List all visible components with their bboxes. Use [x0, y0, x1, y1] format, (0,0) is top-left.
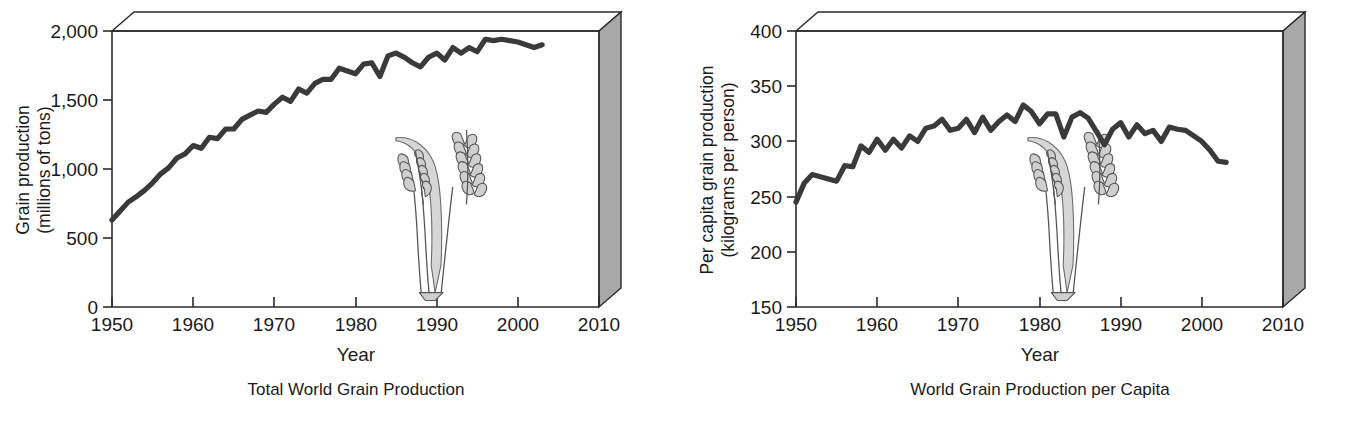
y-axis-title-line1: Per capita grain production — [697, 65, 717, 274]
y-axis-title-line1: Grain production — [13, 105, 33, 234]
x-tick-label: 1960 — [856, 314, 898, 335]
y-tick-label: 2,000 — [50, 21, 98, 42]
total-production-chart: 0 500 1,000 1,500 2,000 1950 1960 1970 — [0, 0, 684, 422]
x-tick-label: 2000 — [1181, 314, 1223, 335]
grain-production-figure: 0 500 1,000 1,500 2,000 1950 1960 1970 — [0, 0, 1368, 422]
y-axis-ticks — [787, 31, 796, 307]
y-tick-label: 250 — [750, 187, 782, 208]
y-tick-label: 400 — [750, 21, 782, 42]
wheat-illustration-icon — [396, 130, 487, 301]
x-tick-label: 2010 — [1262, 314, 1304, 335]
x-tick-label: 1950 — [91, 314, 133, 335]
x-tick-label: 1950 — [775, 314, 817, 335]
panel-per-capita-grain-production: 150 200 250 300 350 400 1950 1960 1970 — [684, 0, 1368, 422]
y-axis-tick-labels: 150 200 250 300 350 400 — [750, 21, 782, 318]
panel-caption: Total World Grain Production — [247, 380, 464, 399]
y-axis-ticks — [103, 31, 112, 307]
box-top-face — [796, 12, 1305, 31]
panel-total-world-grain-production: 0 500 1,000 1,500 2,000 1950 1960 1970 — [0, 0, 684, 422]
x-axis-ticks — [112, 297, 599, 307]
y-axis-title-line2: (millions of tons) — [34, 106, 54, 233]
x-axis-ticks — [796, 297, 1283, 307]
wheat-illustration-icon — [1028, 130, 1119, 301]
wheat-head-right — [452, 130, 486, 204]
x-axis-tick-labels: 1950 1960 1970 1980 1990 2000 2010 — [91, 314, 620, 335]
x-axis-tick-labels: 1950 1960 1970 1980 1990 2000 2010 — [775, 314, 1304, 335]
x-tick-label: 1970 — [937, 314, 979, 335]
x-tick-label: 1990 — [416, 314, 458, 335]
x-tick-label: 1980 — [335, 314, 377, 335]
x-axis-title: Year — [1021, 344, 1060, 365]
x-tick-label: 1970 — [253, 314, 295, 335]
per-capita-chart: 150 200 250 300 350 400 1950 1960 1970 — [684, 0, 1368, 422]
y-axis-title-line2: (kilograms per person) — [718, 82, 738, 257]
x-tick-label: 2010 — [578, 314, 620, 335]
per-capita-series-line — [796, 105, 1226, 202]
box-right-face — [599, 12, 621, 307]
y-tick-label: 200 — [750, 242, 782, 263]
y-tick-label: 1,000 — [50, 159, 98, 180]
x-tick-label: 2000 — [497, 314, 539, 335]
x-tick-label: 1990 — [1100, 314, 1142, 335]
x-tick-label: 1980 — [1019, 314, 1061, 335]
box-right-face — [1283, 12, 1305, 307]
y-tick-label: 350 — [750, 76, 782, 97]
y-tick-label: 300 — [750, 131, 782, 152]
x-axis-title: Year — [337, 344, 376, 365]
y-tick-label: 1,500 — [50, 90, 98, 111]
panel-caption: World Grain Production per Capita — [910, 380, 1170, 399]
x-tick-label: 1960 — [172, 314, 214, 335]
y-axis-tick-labels: 0 500 1,000 1,500 2,000 — [50, 21, 98, 318]
y-tick-label: 500 — [66, 228, 98, 249]
box-top-face — [112, 12, 621, 31]
